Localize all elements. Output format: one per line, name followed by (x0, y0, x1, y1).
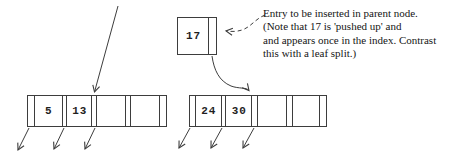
key-cell-24: 24 (196, 96, 222, 126)
key-cell-5: 5 (35, 96, 63, 126)
pointer-cell (160, 96, 166, 126)
annotation-line: (Note that 17 is 'pushed up' and (263, 20, 451, 33)
empty-key-cell (131, 96, 161, 126)
left-index-node: 5 13 (27, 95, 167, 127)
annotation-line: this with a leaf split.) (263, 47, 451, 60)
child-pointer-arrow (85, 128, 95, 149)
annotation-dashed-arrow (226, 15, 265, 31)
annotation-line: and appears once in the index. Contrast (263, 34, 451, 47)
pointer-cell (28, 96, 35, 126)
pointer-cell (320, 96, 326, 126)
key-cell-30: 30 (226, 96, 252, 126)
key-cell-17: 17 (178, 18, 209, 54)
empty-key-cell (97, 96, 126, 126)
empty-key-cell (293, 96, 321, 126)
annotation-line: Entry to be inserted in parent node. (263, 7, 451, 20)
right-index-node: 24 30 (189, 95, 327, 127)
push-up-arrow (212, 56, 249, 91)
parent-pointer-arrow (95, 6, 119, 92)
annotation-text: Entry to be inserted in parent node. (No… (263, 7, 451, 61)
pointer-cell (209, 18, 216, 54)
child-pointer-arrow (179, 128, 190, 148)
empty-key-cell (258, 96, 287, 126)
child-pointer-arrow (18, 128, 29, 150)
key-cell-13: 13 (67, 96, 92, 126)
pushed-up-entry-box: 17 (177, 17, 217, 55)
btree-split-diagram: 17 5 13 24 30 Entry to be inserted in pa… (0, 0, 452, 160)
child-pointer-arrow (54, 128, 64, 149)
child-pointer-arrow (243, 128, 254, 148)
child-pointer-arrow (211, 128, 222, 148)
